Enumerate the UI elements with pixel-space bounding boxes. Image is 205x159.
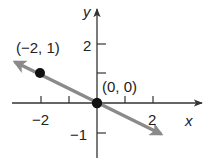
point-neg2-1 [35, 68, 45, 78]
point-label-origin: (0, 0) [102, 78, 137, 95]
point-label-neg2-1: (−2, 1) [16, 39, 60, 56]
x-tick-label-neg2: −2 [32, 111, 49, 128]
y-tick-label-2: 2 [83, 37, 91, 54]
coordinate-plane: y x 2 −1 −2 2 (−2, 1) (0, 0) [0, 0, 205, 159]
x-axis-label: x [184, 112, 193, 129]
y-tick-label-neg1: −1 [70, 126, 87, 143]
x-tick-label-2: 2 [148, 111, 156, 128]
y-axis-label: y [82, 3, 92, 20]
point-origin [92, 98, 102, 108]
